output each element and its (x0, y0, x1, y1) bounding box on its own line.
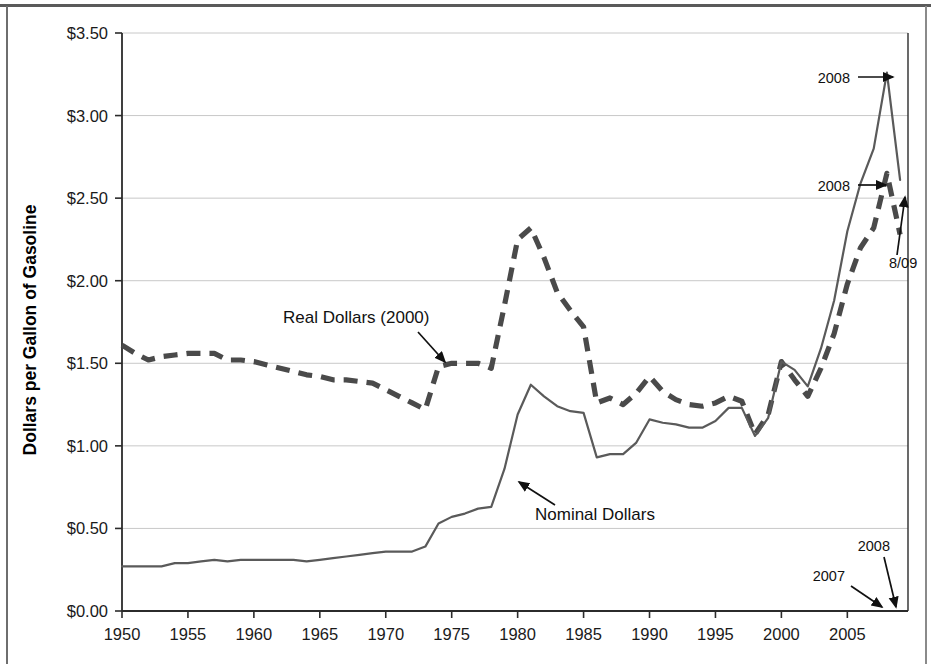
y-axis-tick-label: $3.00 (67, 107, 108, 125)
annotation-label-real-2008-peak: 2008 (818, 178, 850, 194)
x-axis-tick-label: 1990 (631, 625, 668, 643)
y-axis-tick-label: $0.50 (67, 519, 108, 537)
y-axis-tick-label: $1.50 (67, 354, 108, 372)
annotation-label-axis-2008: 2008 (858, 538, 890, 554)
y-axis-tick-label: $0.00 (67, 602, 108, 620)
annotation-arrow-nominal-dollars-series (519, 482, 555, 505)
y-axis-tick-label: $1.00 (67, 437, 108, 455)
x-axis-tick-labels: 1950195519601965197019751980198519901995… (104, 625, 866, 643)
x-axis-tick-label: 1965 (301, 625, 338, 643)
grid-lines (122, 33, 908, 611)
gasoline-price-line-chart: $3.50$3.00$2.50$2.00$1.50$1.00$0.50$0.00… (0, 0, 931, 664)
annotation-arrow-aug-2009 (897, 197, 905, 255)
x-axis-tick-label: 1955 (170, 625, 207, 643)
x-axis-tick-label: 1960 (236, 625, 273, 643)
y-axis-tick-label: $3.50 (67, 24, 108, 42)
y-axis-tick-label: $2.50 (67, 189, 108, 207)
x-axis-tick-label: 1950 (104, 625, 141, 643)
chart-annotations: Real Dollars (2000)Nominal Dollars200820… (283, 70, 917, 607)
annotation-label-aug-2009: 8/09 (889, 255, 917, 271)
x-axis-tick-label: 1970 (367, 625, 404, 643)
x-axis-tick-label: 2000 (763, 625, 800, 643)
axes (115, 33, 908, 618)
x-axis-tick-label: 1985 (565, 625, 602, 643)
annotation-label-nominal-dollars-series: Nominal Dollars (535, 505, 655, 524)
annotation-label-nominal-2008-peak: 2008 (818, 70, 850, 86)
x-axis-tick-label: 1980 (499, 625, 536, 643)
chart-page: $3.50$3.00$2.50$2.00$1.50$1.00$0.50$0.00… (0, 0, 931, 664)
series-line-real-dollars (122, 173, 900, 434)
y-axis-tick-label: $2.00 (67, 272, 108, 290)
annotation-arrow-axis-2007 (851, 586, 882, 607)
annotation-label-axis-2007: 2007 (813, 568, 845, 584)
x-axis-tick-label: 1995 (697, 625, 734, 643)
annotation-arrow-axis-2008 (884, 557, 896, 607)
annotation-label-real-dollars-series: Real Dollars (2000) (283, 308, 429, 327)
data-series (122, 73, 900, 567)
x-axis-tick-label: 2005 (829, 625, 866, 643)
series-line-nominal-dollars (122, 73, 900, 567)
y-axis-title: Dollars per Gallon of Gasoline (20, 204, 40, 455)
x-axis-tick-label: 1975 (433, 625, 470, 643)
y-axis-tick-labels: $3.50$3.00$2.50$2.00$1.50$1.00$0.50$0.00 (67, 24, 108, 620)
annotation-arrow-real-dollars-series (418, 332, 445, 362)
